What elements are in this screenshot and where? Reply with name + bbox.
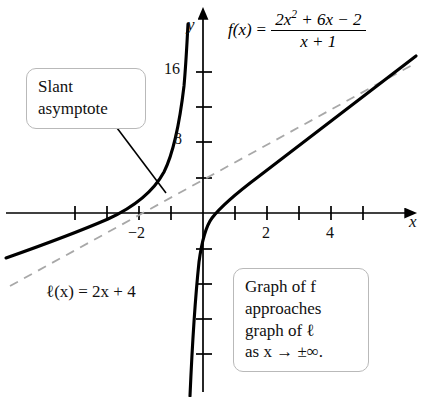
x-tick-label-4: 4 [326,225,334,241]
function-curve-left-branch [6,24,188,258]
formula-equals: = [257,20,267,40]
slant-asymptote-callout: Slant asymptote [26,68,146,129]
y-axis-label: y [187,16,195,33]
approaches-callout-line-4: as x → ±∞. [245,341,357,363]
function-formula: f(x) = 2x2 + 6x − 2 x + 1 [228,8,366,52]
rational-function-figure: x y −2 2 4 8 16 f(x) = 2x2 + 6x − 2 x + … [0,0,428,397]
x-axis-label: x [409,213,417,230]
y-tick-label-8: 8 [174,131,182,147]
x-tick-label-2: 2 [262,225,270,241]
formula-numerator: 2x2 + 6x − 2 [271,8,365,30]
approaches-callout-line-2: approaches [245,298,357,320]
slant-asymptote-equation-label: ℓ(x) = 2x + 4 [46,283,136,300]
slant-callout-line-1: Slant [38,76,134,98]
numerator-term-b: + 6x − 2 [297,10,362,29]
approaches-callout: Graph of f approaches graph of ℓ as x → … [233,268,369,372]
formula-fraction: 2x2 + 6x − 2 x + 1 [271,8,365,52]
approaches-callout-line-3: graph of ℓ [245,320,357,342]
x-tick-label-minus-2: −2 [128,225,145,241]
approaches-callout-line-1: Graph of f [245,276,357,298]
y-tick-label-16: 16 [164,61,180,77]
formula-function-name: f(x) [228,20,252,40]
numerator-term-a: 2x [275,10,291,29]
slant-callout-line-2: asymptote [38,98,134,120]
formula-denominator: x + 1 [271,30,365,52]
